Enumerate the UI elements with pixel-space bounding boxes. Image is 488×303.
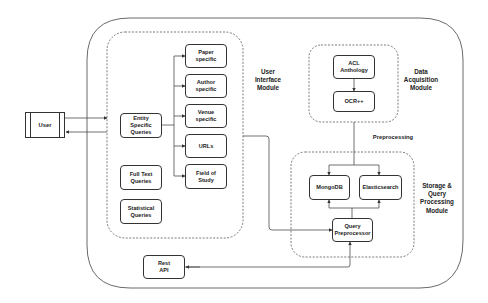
entity-specific-queries-node: Entity Specific Queries [120,113,162,138]
elasticsearch-node: Elasticsearch [359,175,402,200]
data-acquisition-label: Data Acquisition Module [400,68,442,93]
statistical-queries-node: Statistical Queries [120,199,162,224]
user-bar-left [30,113,31,137]
storage-module-label: Storage & Query Processing Module [417,182,457,215]
ui-module-label: User Interface Module [252,68,284,93]
acl-anthology-node: ACL Anthology [333,55,375,79]
user-label: User [39,122,52,128]
venue-specific-node: Venue specific [185,104,227,128]
system-boundary [87,18,463,288]
field-of-study-node: Field of Study [185,164,227,189]
preprocessing-label: Preprocessing [362,134,424,142]
paper-specific-node: Paper specific [185,44,227,68]
query-preprocessor-node: Query Preprocessor [332,218,373,242]
rest-api-node: Rest API [143,255,185,279]
user-actor: User [25,112,65,138]
full-text-queries-node: Full Text Queries [120,165,162,190]
mongodb-node: MongoDB [309,175,350,200]
urls-node: URLs [185,134,227,158]
user-bar-right [59,113,60,137]
diagram-connectors [0,0,488,303]
author-specific-node: Author specific [185,74,227,98]
ocr-node: OCR++ [333,91,375,112]
